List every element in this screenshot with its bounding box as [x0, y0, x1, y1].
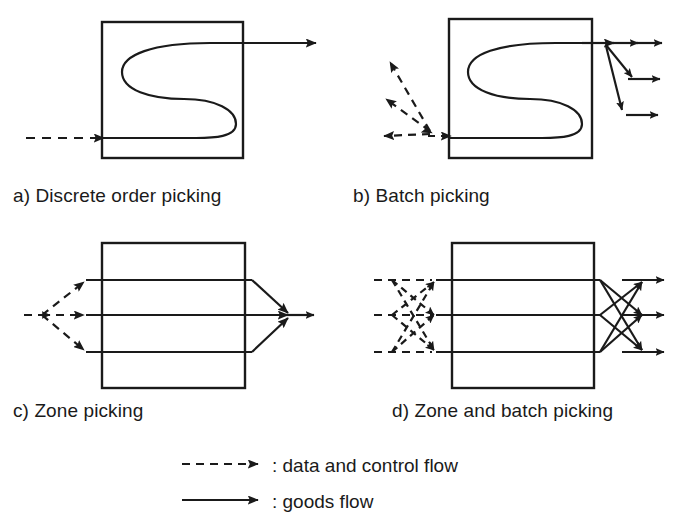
panel-b-data-in-2: [386, 99, 430, 131]
panel-c-goods-merge-3: [252, 318, 288, 352]
panel-d-caption: d) Zone and batch picking: [392, 400, 613, 422]
panel-b-data-in-1: [390, 62, 430, 131]
panel-d-diagram: [374, 243, 664, 388]
panel-c-data-out-3: [42, 315, 84, 350]
panel-b-caption: b) Batch picking: [353, 185, 490, 207]
legend-symbols: [182, 464, 258, 500]
panel-c-diagram: [24, 243, 314, 388]
panel-a-caption: a) Discrete order picking: [13, 185, 221, 207]
panel-b-diagram: [384, 19, 662, 158]
figure-canvas: [0, 0, 680, 529]
panel-c-goods-merge-1: [252, 280, 288, 313]
panel-d-data-cross-3: [392, 282, 434, 315]
panel-b-data-in-3: [384, 134, 430, 136]
panel-a-s-route: [102, 43, 302, 138]
panel-b-s-route: [449, 43, 640, 138]
panel-a-diagram: [26, 22, 316, 158]
legend-data-control-flow-label: : data and control flow: [272, 455, 458, 477]
legend-goods-flow-label: : goods flow: [272, 491, 373, 513]
panel-c-caption: c) Zone picking: [13, 400, 143, 422]
panel-d-data-cross-6: [392, 315, 434, 352]
panel-c-data-out-1: [42, 282, 84, 315]
order-picking-figure: a) Discrete order picking b) Batch picki…: [0, 0, 680, 529]
